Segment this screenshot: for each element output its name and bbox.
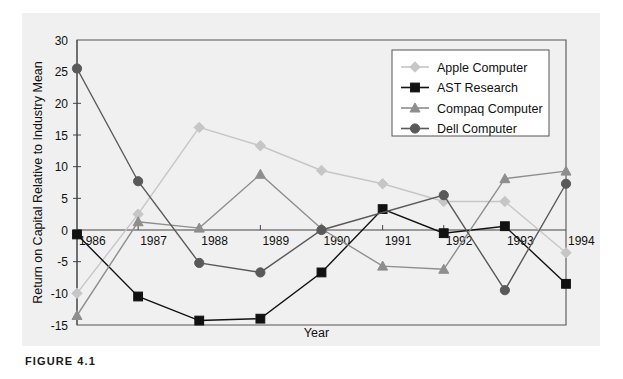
- y-tick-label: -15: [51, 319, 69, 333]
- data-point-marker: [134, 177, 143, 186]
- data-point-marker: [256, 314, 265, 323]
- figure-container: 302520151050-5-10-1519861987198819891990…: [0, 0, 623, 379]
- y-tick-label: 20: [55, 97, 69, 111]
- data-point-marker: [73, 230, 82, 239]
- data-point-marker: [500, 286, 509, 295]
- x-tick-label: 1991: [385, 234, 412, 248]
- legend-label: Compaq Computer: [437, 102, 543, 116]
- x-tick-label: 1989: [262, 234, 289, 248]
- data-point-marker: [377, 179, 387, 189]
- x-tick-label: 1988: [201, 234, 228, 248]
- y-tick-label: 30: [55, 34, 69, 48]
- legend-label: Apple Computer: [437, 61, 527, 75]
- data-point-marker: [256, 268, 265, 277]
- y-tick-label: -5: [57, 255, 68, 269]
- y-axis-title: Return on Capital Relative to Industry M…: [31, 61, 45, 304]
- data-point-marker: [194, 122, 204, 132]
- x-axis: 198619871988198919901991199219931994: [79, 225, 595, 248]
- data-point-marker: [500, 222, 509, 231]
- data-point-marker: [195, 258, 204, 267]
- y-tick-label: 25: [55, 65, 69, 79]
- data-point-marker: [195, 316, 204, 325]
- data-point-marker: [255, 141, 265, 151]
- data-point-marker: [317, 268, 326, 277]
- data-point-marker: [410, 124, 419, 133]
- y-tick-label: 0: [61, 224, 68, 238]
- x-tick-label: 1994: [568, 234, 595, 248]
- legend-label: AST Research: [437, 81, 518, 95]
- data-point-marker: [317, 225, 326, 234]
- y-axis: 302520151050-5-10-15: [51, 34, 81, 333]
- data-point-marker: [255, 169, 265, 178]
- x-axis-title: Year: [304, 326, 329, 340]
- y-tick-label: 15: [55, 129, 69, 143]
- data-point-marker: [439, 229, 448, 238]
- y-tick-label: -10: [51, 287, 69, 301]
- data-point-marker: [411, 83, 420, 92]
- x-tick-label: 1987: [140, 234, 167, 248]
- chart-legend: Apple ComputerAST ResearchCompaq Compute…: [392, 50, 549, 136]
- data-point-marker: [561, 179, 570, 188]
- figure-caption: FIGURE 4.1: [25, 355, 96, 367]
- data-point-marker: [562, 279, 571, 288]
- data-point-marker: [72, 64, 81, 73]
- y-tick-label: 5: [61, 192, 68, 206]
- line-chart: 302520151050-5-10-1519861987198819891990…: [0, 0, 623, 355]
- y-tick-label: 10: [55, 160, 69, 174]
- data-point-marker: [561, 166, 571, 175]
- data-point-marker: [316, 165, 326, 175]
- data-point-marker: [134, 292, 143, 301]
- legend-label: Dell Computer: [437, 122, 517, 136]
- data-point-marker: [72, 311, 82, 320]
- data-point-marker: [439, 191, 448, 200]
